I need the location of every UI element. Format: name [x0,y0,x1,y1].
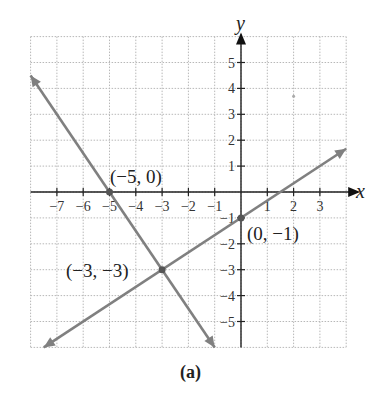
y-axis-label: y [234,12,245,35]
y-tick-label: 2 [228,133,235,148]
arrowhead-icon [204,335,214,347]
axes [31,33,361,348]
stray-dot [292,95,295,98]
y-tick-label: −2 [220,237,235,252]
data-point [159,266,166,273]
figure-caption: (a) [0,362,381,383]
point-label-minus3-minus3: (−3, −3) [66,260,129,282]
y-tick-label: −3 [220,263,235,278]
arrowhead-icon [334,149,346,159]
x-tick-label: −7 [49,199,64,214]
data-point [106,189,113,196]
x-axis-label: x [355,180,365,202]
x-tick-label: 3 [316,199,323,214]
arrowhead-icon [31,75,41,87]
y-tick-label: 4 [228,81,235,96]
y-tick-label: 1 [228,159,235,174]
x-tick-label: −2 [181,199,196,214]
y-tick-label: −5 [220,315,235,330]
y-tick-label: −4 [220,289,235,304]
x-tick-label: 2 [290,199,297,214]
data-point [238,214,245,221]
point-label-0-minus1: (0, −1) [247,223,299,245]
x-tick-label: −6 [76,199,91,214]
arrowhead-icon [44,337,56,347]
y-axis-arrow-icon [236,33,246,45]
point-label-minus5-0: (−5, 0) [110,166,162,188]
x-tick-label: −3 [155,199,170,214]
coordinate-plane: −7−6−5−4−3−2−112354321−1−2−3−4−5 x y (−5… [0,0,381,396]
y-tick-label: 5 [228,56,235,71]
y-tick-label: 3 [228,107,235,122]
x-tick-label: −4 [128,199,143,214]
